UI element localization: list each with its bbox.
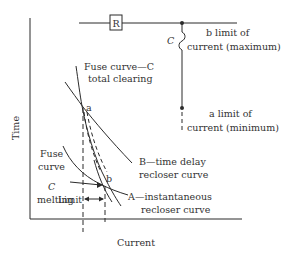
point-b-label: b [106,173,112,184]
coordination-diagram: Time Current R C b limit of current (max… [0,0,285,258]
a-limit-line1: a limit of [209,108,253,119]
limit-label: Limit [58,195,82,205]
b-limit-line1: b limit of [206,27,251,38]
load-node [180,106,184,110]
time-delay-label-1: B—time delay [139,156,206,167]
diagram-canvas: Time Current R C b limit of current (max… [0,0,285,258]
fuse-melting-label-2: curve [38,161,65,172]
recloser-label: R [112,18,120,29]
fuse-melting-curve [63,146,128,195]
instantaneous-label-2: recloser curve [141,204,211,215]
fuse-total-clearing-label-2: total clearing [88,73,153,84]
instantaneous-label-1: A—instantaneous [127,191,212,202]
point-a-label: a [86,102,92,113]
a-limit-line2: current (minimum) [187,122,279,133]
fuse-melting-label-1: Fuse [40,148,64,159]
time-delay-recloser-curve [65,82,132,163]
b-limit-line2: current (maximum) [187,41,281,52]
fuse-melting-label-3: C [48,181,56,192]
fuse-label: C [167,35,175,46]
limit-arrowhead-left [84,197,89,202]
fuse-symbol [179,23,185,108]
x-axis-label: Current [117,237,155,248]
fuse-total-clearing-label-1: Fuse curve—C [84,61,154,72]
limit-arrowhead-right [99,197,104,202]
time-delay-label-2: recloser curve [139,169,209,180]
y-axis-label: Time [10,116,21,140]
